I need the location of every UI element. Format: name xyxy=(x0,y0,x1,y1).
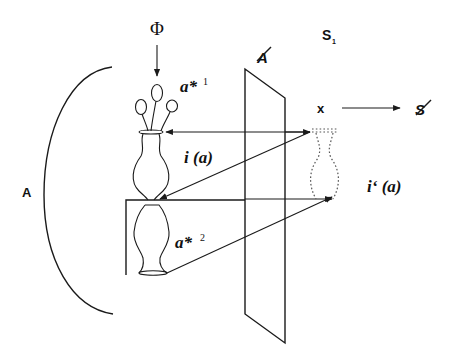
label-A-barred: A xyxy=(256,47,271,66)
svg-text:1: 1 xyxy=(203,76,208,87)
concave-mirror-arc xyxy=(44,67,113,314)
label-x: x xyxy=(317,101,325,116)
svg-text:1: 1 xyxy=(332,38,336,45)
label-S1: S 1 xyxy=(322,27,336,45)
virtual-image-vase-icon xyxy=(311,129,339,199)
svg-text:a*: a* xyxy=(175,233,193,252)
svg-text:2: 2 xyxy=(200,232,205,243)
inverted-vase-icon xyxy=(134,205,169,275)
label-S-barred: S xyxy=(415,100,431,118)
flowers-icon xyxy=(136,85,178,132)
optical-schema-diagram: A Φ a* 1 i (a) a* 2 A xyxy=(0,0,451,361)
label-A: A xyxy=(22,185,32,200)
upper-vase-icon xyxy=(133,130,169,200)
label-i-prime-a: i‘ (a) xyxy=(367,177,401,196)
svg-text:a*: a* xyxy=(180,77,198,96)
label-i-a: i (a) xyxy=(184,148,213,167)
plane-mirror xyxy=(245,69,285,343)
ray-diagonal-to-vase-base xyxy=(160,132,310,199)
label-a-star-1: a* 1 xyxy=(180,76,208,96)
label-phi: Φ xyxy=(150,18,164,39)
svg-text:S: S xyxy=(322,27,331,43)
label-a-star-2: a* 2 xyxy=(175,232,205,252)
